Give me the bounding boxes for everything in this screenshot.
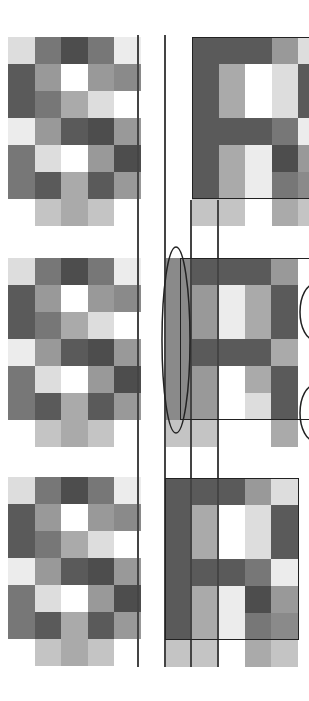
pixel-cell [88, 612, 115, 639]
pixel-cell [8, 531, 35, 558]
pixel-cell [88, 504, 115, 531]
pixel-cell [61, 258, 88, 285]
pixel-cell [8, 64, 35, 91]
pixel-cell [8, 366, 35, 393]
pixel-cell [88, 285, 115, 312]
pixel-cell [8, 339, 35, 366]
pixel-cell [271, 420, 298, 447]
pixel-cell [61, 585, 88, 612]
pixel-cell [88, 531, 115, 558]
pixel-cell [245, 420, 272, 447]
pixel-cell [218, 420, 245, 447]
pixel-cell [192, 640, 219, 667]
pixel-cell [35, 91, 62, 118]
pixel-cell [8, 612, 35, 639]
pixel-cell [61, 393, 88, 420]
pixel-cell [61, 312, 88, 339]
pixel-cell [88, 118, 115, 145]
pixel-cell [8, 504, 35, 531]
pixel-cell [88, 64, 115, 91]
pixel-cell [165, 640, 192, 667]
pixel-cell [8, 199, 35, 226]
pixel-cell [88, 585, 115, 612]
pixel-cell [88, 258, 115, 285]
pixel-cell [61, 145, 88, 172]
pixel-grid-left-bottom [8, 477, 141, 666]
pixel-cell [35, 585, 62, 612]
pixel-cell [35, 312, 62, 339]
pixel-cell [88, 199, 115, 226]
pixel-cell [88, 366, 115, 393]
pixel-cell [35, 639, 62, 666]
bounding-box-bottom [165, 478, 299, 640]
pixel-cell [61, 639, 88, 666]
bounding-box-middle [180, 258, 309, 420]
pixel-cell [88, 477, 115, 504]
pixel-cell [192, 420, 219, 447]
pixel-cell [61, 531, 88, 558]
pixel-cell [271, 640, 298, 667]
pixel-cell [219, 199, 246, 226]
pixel-cell [8, 285, 35, 312]
pixel-cell [8, 37, 35, 64]
pixel-cell [245, 640, 272, 667]
pixel-cell [8, 393, 35, 420]
pixel-cell [192, 199, 219, 226]
pixel-cell [35, 420, 62, 447]
pixel-cell [35, 199, 62, 226]
pixel-cell [88, 172, 115, 199]
pixel-cell [35, 477, 62, 504]
pixel-cell [88, 312, 115, 339]
pixel-cell [35, 393, 62, 420]
pixel-cell [8, 91, 35, 118]
pixel-cell [35, 531, 62, 558]
pixel-cell [245, 199, 272, 226]
pixel-cell [35, 285, 62, 312]
pixel-cell [61, 199, 88, 226]
pixel-cell [8, 477, 35, 504]
pixel-cell [88, 91, 115, 118]
pixel-cell [8, 585, 35, 612]
pixel-cell [8, 118, 35, 145]
pixel-grid-left-top [8, 37, 141, 226]
pixel-cell [35, 504, 62, 531]
pixel-cell [218, 640, 245, 667]
pixel-cell [61, 172, 88, 199]
pixel-cell [272, 199, 299, 226]
pixel-cell [35, 366, 62, 393]
pixel-cell [61, 339, 88, 366]
pixel-cell [61, 91, 88, 118]
pixel-cell [61, 420, 88, 447]
pixel-cell [35, 172, 62, 199]
pixel-grid-left-middle [8, 258, 141, 447]
pixel-cell [8, 420, 35, 447]
pixel-cell [298, 199, 309, 226]
pixel-cell [8, 639, 35, 666]
pixel-cell [88, 37, 115, 64]
pixel-cell [61, 612, 88, 639]
bounding-box-top [192, 37, 309, 199]
pixel-cell [165, 420, 192, 447]
pixel-cell [88, 145, 115, 172]
pixel-cell [8, 172, 35, 199]
pixel-cell [61, 285, 88, 312]
pixel-cell [35, 339, 62, 366]
pixel-cell [8, 258, 35, 285]
pixel-cell [88, 558, 115, 585]
pixel-cell [61, 558, 88, 585]
pixel-cell [35, 118, 62, 145]
pixel-cell [88, 339, 115, 366]
separator-line [137, 35, 139, 667]
pixel-cell [35, 64, 62, 91]
pixel-cell [35, 145, 62, 172]
pixel-cell [88, 420, 115, 447]
pixel-cell [35, 612, 62, 639]
pixel-cell [8, 558, 35, 585]
pixel-cell [61, 477, 88, 504]
pixel-cell [61, 504, 88, 531]
pixel-cell [8, 312, 35, 339]
pixel-cell [61, 64, 88, 91]
pixel-cell [35, 37, 62, 64]
pixel-cell [61, 37, 88, 64]
pixel-cell [35, 258, 62, 285]
